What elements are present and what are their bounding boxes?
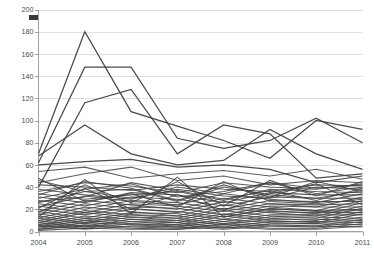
x-axis-tick-label: 2011 (355, 238, 370, 247)
x-axis-tick-label: 2009 (262, 238, 278, 247)
y-axis-tick-label: 200 (22, 5, 34, 14)
y-axis-tick-label: 60 (26, 161, 34, 170)
y-axis-tick-label: 180 (22, 27, 34, 36)
legend-swatch (29, 15, 38, 20)
x-axis-tick-label: 2007 (169, 238, 185, 247)
chart-legend (29, 15, 38, 20)
y-axis-tick-label: 140 (22, 72, 34, 81)
y-axis-tick-label: 40 (26, 183, 34, 192)
y-axis-tick-label: 80 (26, 138, 34, 147)
y-axis-tick-label: 160 (22, 50, 34, 59)
y-axis-tick-label: 20 (26, 205, 34, 214)
chart-container: 020406080100120140160180200 200420052006… (0, 0, 374, 254)
x-axis-tick-label: 2005 (77, 238, 93, 247)
x-axis-tick-label: 2004 (31, 238, 47, 247)
x-axis-tick-label: 2010 (308, 238, 324, 247)
x-axis-tick-label: 2008 (216, 238, 232, 247)
y-axis-tick-label: 120 (22, 94, 34, 103)
y-axis-tick-label: 0 (30, 227, 34, 236)
line-chart: 020406080100120140160180200 200420052006… (0, 0, 374, 254)
y-axis-tick-label: 100 (22, 116, 34, 125)
x-axis-tick-label: 2006 (123, 238, 139, 247)
